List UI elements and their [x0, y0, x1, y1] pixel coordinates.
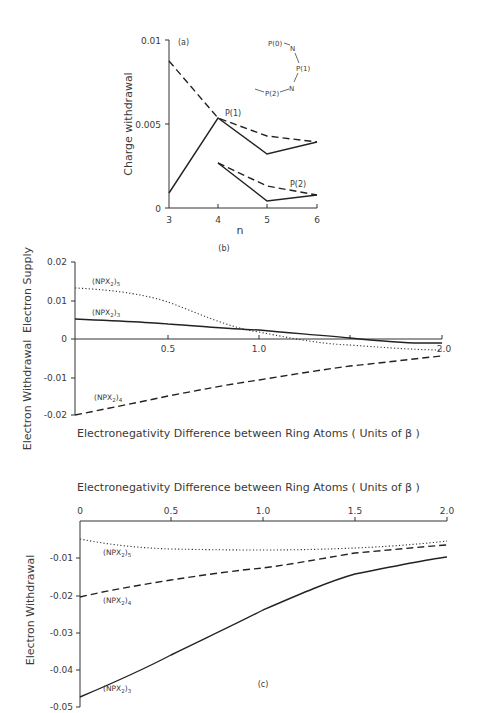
- chart-c-xlabel: Electronegativity Difference between Rin…: [77, 481, 420, 494]
- chart-a-annotation-p2: P(2): [290, 180, 306, 189]
- chart-b-xtick: 2.0: [437, 344, 452, 354]
- chart-a-panel-label: (a): [178, 38, 189, 47]
- svg-text:N: N: [290, 45, 295, 53]
- chart-c-label-npx5: (NPX2)5: [103, 548, 132, 558]
- chart-a: 0.01 0.005 0 3 4 5 6 n Charge withdrawal…: [122, 36, 320, 237]
- chart-c-label-npx4: (NPX2)4: [103, 596, 132, 606]
- chart-a-xtick: 4: [215, 215, 221, 225]
- figure: 0.01 0.005 0 3 4 5 6 n Charge withdrawal…: [0, 0, 480, 713]
- chart-c-xtick: 1.5: [348, 506, 362, 516]
- chart-b-label-npx5: (NPX2)5: [92, 277, 121, 287]
- chart-a-inset-diagram: P(0) N P(1) N P(2): [255, 40, 310, 98]
- chart-b-label-npx4: (NPX2)4: [94, 393, 123, 403]
- chart-b-ytick: 0.01: [47, 296, 67, 306]
- chart-b-ytick: 0: [61, 334, 67, 344]
- chart-c-ytick: -0.02: [50, 591, 73, 601]
- chart-b-series-npx4: [75, 356, 442, 415]
- chart-b-xtick: 1.0: [252, 344, 267, 354]
- chart-b-ytick: 0.02: [47, 257, 67, 267]
- chart-c-ylabel: Electron Withdrawal: [24, 555, 37, 666]
- chart-a-xtick: 6: [314, 215, 320, 225]
- chart-a-xtick: 3: [166, 215, 172, 225]
- chart-a-series-p1-dashed: [169, 61, 317, 142]
- chart-a-xlabel: n: [237, 224, 244, 237]
- chart-c-series-npx5: [80, 539, 447, 550]
- svg-text:P(1): P(1): [296, 65, 310, 73]
- chart-c-xtick: 1.0: [256, 506, 271, 516]
- chart-b-ytick: -0.02: [44, 410, 67, 420]
- chart-a-ytick: 0: [155, 204, 161, 214]
- chart-b-xtick: 0.5: [161, 344, 175, 354]
- chart-c-label-npx3: (NPX2)3: [103, 684, 132, 694]
- chart-c-ytick: -0.03: [50, 628, 73, 638]
- svg-text:P(0): P(0): [268, 40, 282, 48]
- chart-c-series-npx4: [80, 545, 447, 597]
- chart-c-panel-label: (c): [258, 680, 269, 689]
- chart-a-ytick: 0.01: [141, 36, 161, 46]
- chart-b-ytick: -0.01: [44, 373, 67, 383]
- chart-c-xtick: 0.5: [164, 506, 178, 516]
- chart-b: 0.02 0.01 0 -0.01 -0.02 0.5 1.0 2.0 Elec…: [21, 246, 451, 450]
- chart-c-xtick: 0: [77, 506, 83, 516]
- chart-b-panel-label: (b): [218, 244, 229, 253]
- chart-c-ytick: -0.01: [50, 553, 73, 563]
- svg-text:P(2): P(2): [265, 90, 279, 98]
- chart-c-xtick: 2.0: [440, 506, 455, 516]
- chart-c-ytick: -0.05: [50, 702, 73, 712]
- chart-a-series-p2-dashed: [218, 163, 317, 195]
- chart-a-ylabel: Charge withdrawal: [122, 72, 135, 175]
- chart-a-annotation-p1: P(1): [225, 109, 241, 118]
- chart-c-series-npx3: [80, 557, 447, 697]
- svg-text:N: N: [289, 85, 294, 93]
- chart-a-ytick: 0.005: [135, 120, 161, 130]
- chart-b-ylabel-bottom: Electron Withdrawal: [21, 340, 34, 451]
- chart-c-ytick: -0.04: [50, 665, 74, 675]
- chart-b-xlabel: Electronegativity Difference between Rin…: [77, 427, 420, 440]
- chart-a-xtick: 5: [264, 215, 270, 225]
- chart-c: Electronegativity Difference between Rin…: [24, 481, 454, 712]
- chart-b-label-npx3: (NPX2)3: [92, 308, 121, 318]
- chart-b-ylabel-top: Electron Supply: [21, 246, 34, 333]
